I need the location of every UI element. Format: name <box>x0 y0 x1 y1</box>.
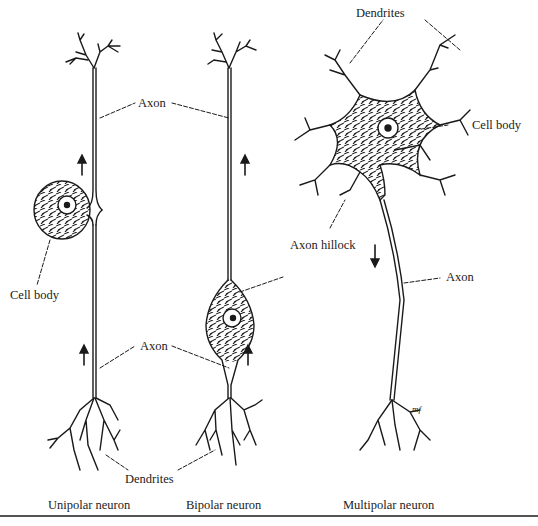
caption-multipolar: Multipolar neuron <box>343 498 434 512</box>
neuron-diagram <box>0 0 538 526</box>
label-cell-body-multipolar: Cell body <box>472 118 521 132</box>
bottom-rule <box>0 515 538 517</box>
label-axon-top: Axon <box>138 96 166 110</box>
caption-unipolar: Unipolar neuron <box>48 498 130 512</box>
label-axon-bottom: Axon <box>140 339 168 353</box>
label-cell-body-unipolar: Cell body <box>10 288 59 302</box>
bipolar-neuron <box>196 33 262 465</box>
caption-bipolar: Bipolar neuron <box>186 498 261 512</box>
label-axon-hillock: Axon hillock <box>290 238 356 252</box>
artist-signature: mf <box>412 402 421 416</box>
label-axon-multipolar: Axon <box>446 270 474 284</box>
label-dendrites-bottom: Dendrites <box>125 472 174 486</box>
label-dendrites-top: Dendrites <box>356 6 405 20</box>
